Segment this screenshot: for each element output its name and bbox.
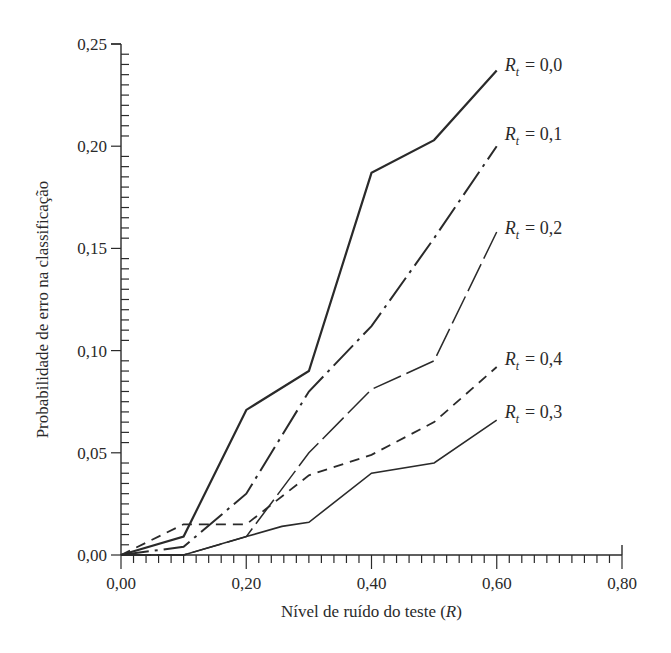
x-tick-label: 0,60 xyxy=(482,574,512,593)
series-line-0 xyxy=(121,71,497,555)
series-lines xyxy=(121,71,497,555)
y-tick-label: 0,05 xyxy=(77,444,107,463)
series-line-2 xyxy=(121,232,497,555)
series-line-1 xyxy=(121,146,497,555)
y-tick-label: 0,25 xyxy=(77,35,107,54)
x-tick-label: 0,80 xyxy=(607,574,637,593)
y-tick-label: 0,20 xyxy=(77,137,107,156)
x-axis-title: Nível de ruído do teste (R) xyxy=(281,602,462,621)
y-tick-label: 0,00 xyxy=(77,546,107,565)
axes: 0,000,200,400,600,800,000,050,100,150,20… xyxy=(77,35,637,593)
line-chart: 0,000,200,400,600,800,000,050,100,150,20… xyxy=(0,0,671,653)
series-label: Rt= 0,0 xyxy=(504,55,563,79)
x-tick-label: 0,40 xyxy=(357,574,387,593)
series-label: Rt= 0,4 xyxy=(504,349,563,373)
series-label: Rt= 0,3 xyxy=(504,402,563,426)
x-tick-label: 0,20 xyxy=(231,574,261,593)
series-line-3 xyxy=(121,367,497,555)
y-tick-label: 0,15 xyxy=(77,239,107,258)
x-tick-label: 0,00 xyxy=(106,574,136,593)
series-line-4 xyxy=(121,420,497,555)
y-axis-title: Probabilidade de erro na classificação xyxy=(33,181,52,439)
series-label: Rt= 0,2 xyxy=(504,218,563,242)
series-label: Rt= 0,1 xyxy=(504,124,563,148)
series-labels: Rt= 0,0Rt= 0,1Rt= 0,2Rt= 0,4Rt= 0,3 xyxy=(504,55,563,426)
y-tick-label: 0,10 xyxy=(77,342,107,361)
